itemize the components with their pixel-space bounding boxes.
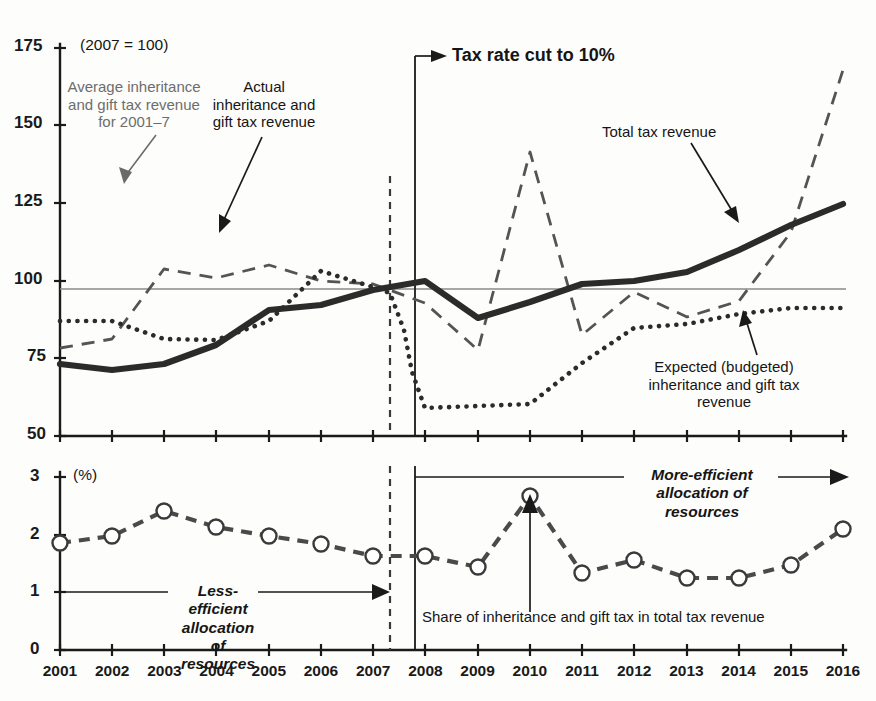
ytick-50: 50 xyxy=(27,424,46,444)
xtick-2004: 2004 xyxy=(193,662,241,680)
more-efficient-label-l1: More-efficient xyxy=(628,466,776,484)
share-caption: Share of inheritance and gift tax in tot… xyxy=(422,608,765,626)
xtick-2002: 2002 xyxy=(88,662,136,680)
less-efficient-label-l1: Less-efficient xyxy=(173,582,263,619)
xtick-2015: 2015 xyxy=(767,662,815,680)
ytick-2: 2 xyxy=(30,524,39,544)
xtick-2011: 2011 xyxy=(558,662,606,680)
expected-series-label-l3: revenue xyxy=(608,393,840,411)
tax-rate-cut-label: Tax rate cut to 10% xyxy=(452,45,615,66)
less-efficient-label-l2: allocation of xyxy=(173,619,263,656)
actual-series-label-l1: Actual xyxy=(199,78,329,96)
actual-series-label-l2: inheritance and xyxy=(199,96,329,114)
percent-note: (%) xyxy=(73,466,97,484)
ytick-75: 75 xyxy=(27,346,46,366)
xtick-2005: 2005 xyxy=(245,662,293,680)
index-base-note: (2007 = 100) xyxy=(80,36,168,54)
expected-series-label-l2: inheritance and gift tax xyxy=(608,376,840,394)
xtick-2014: 2014 xyxy=(715,662,763,680)
xtick-2008: 2008 xyxy=(401,662,449,680)
actual-label-leader xyxy=(219,137,262,233)
xtick-2013: 2013 xyxy=(662,662,710,680)
xtick-2016: 2016 xyxy=(819,662,867,680)
actual-series-label: Actual inheritance and gift tax revenue xyxy=(199,78,329,131)
total-tax-revenue-label: Total tax revenue xyxy=(602,123,716,141)
series-total-tax-revenue xyxy=(60,204,843,370)
average-label-leader xyxy=(119,135,156,184)
more-efficient-label-l3: resources xyxy=(628,503,776,521)
xtick-2009: 2009 xyxy=(454,662,502,680)
share-caption-leader xyxy=(522,494,538,612)
xtick-2001: 2001 xyxy=(36,662,84,680)
more-efficient-label: More-efficient allocation of resources xyxy=(628,466,776,521)
xtick-2003: 2003 xyxy=(140,662,188,680)
expected-label-leader xyxy=(739,310,757,355)
tax-rate-cut-leader xyxy=(415,50,447,62)
expected-series-label-l1: Expected (budgeted) xyxy=(608,358,840,376)
ytick-0: 0 xyxy=(30,639,39,659)
total-label-leader xyxy=(691,143,739,223)
ytick-1: 1 xyxy=(30,581,39,601)
actual-series-label-l3: gift tax revenue xyxy=(199,113,329,131)
expected-series-label: Expected (budgeted) inheritance and gift… xyxy=(608,358,840,411)
less-efficient-label: Less-efficient allocation of resources xyxy=(173,582,263,673)
xtick-2010: 2010 xyxy=(506,662,554,680)
ytick-3: 3 xyxy=(30,466,39,486)
ytick-175: 175 xyxy=(14,36,42,56)
xtick-2012: 2012 xyxy=(610,662,658,680)
xtick-2007: 2007 xyxy=(349,662,397,680)
ytick-125: 125 xyxy=(14,191,42,211)
figure-root: 175 150 125 100 75 50 (2007 = 100) Avera… xyxy=(0,0,876,701)
more-efficient-label-l2: allocation of xyxy=(628,484,776,502)
ytick-100: 100 xyxy=(14,269,42,289)
xtick-2006: 2006 xyxy=(297,662,345,680)
